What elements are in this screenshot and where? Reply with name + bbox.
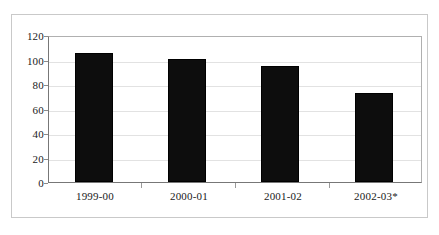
y-tick-label-0: 0: [4, 178, 44, 189]
bar-2001-02: [261, 66, 299, 182]
y-tick-mark-0: [44, 183, 48, 184]
bar-1999-00: [75, 53, 113, 182]
x-tick-label-1999-00: 1999-00: [48, 190, 142, 203]
plot-area: [48, 36, 422, 183]
x-tick-label-2002-03: 2002-03*: [329, 190, 423, 203]
x-tick-label-2000-01: 2000-01: [142, 190, 236, 203]
bar-2000-01: [168, 59, 206, 182]
x-axis: 1999-00 2000-01 2001-02 2002-03*: [48, 190, 422, 208]
y-tick-label-120: 120: [4, 31, 44, 42]
x-tick-label-2001-02: 2001-02: [236, 190, 330, 203]
y-tick-label-20: 20: [4, 154, 44, 165]
x-tick-mark-2: [235, 183, 236, 188]
y-tick-label-80: 80: [4, 80, 44, 91]
y-axis: 120 100 80 60 40 20 0: [0, 36, 44, 183]
x-tick-mark-3: [329, 183, 330, 188]
x-tick-mark-1: [141, 183, 142, 188]
y-tick-label-100: 100: [4, 56, 44, 67]
chart-figure: 120 100 80 60 40 20 0 1999-00 2000-01 20…: [0, 0, 439, 235]
bar-2002-03: [355, 93, 393, 182]
y-tick-label-40: 40: [4, 129, 44, 140]
y-tick-label-60: 60: [4, 105, 44, 116]
